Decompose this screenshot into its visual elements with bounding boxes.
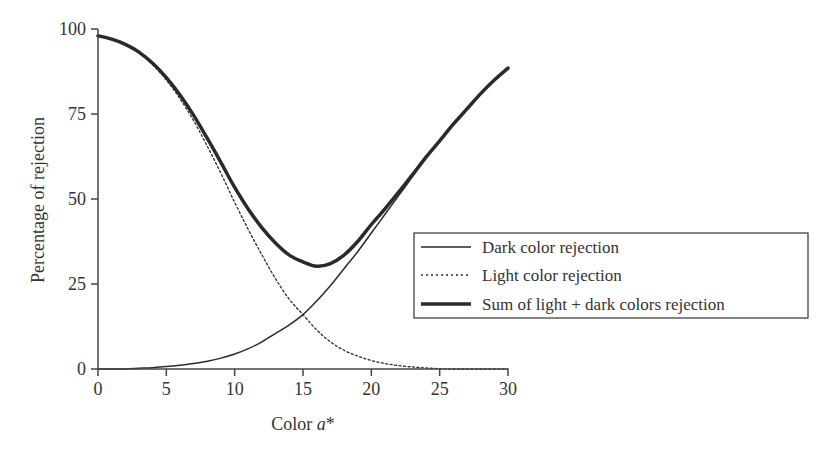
x-tick-label: 10 <box>226 379 244 399</box>
y-tick-label: 50 <box>68 189 86 209</box>
x-axis-title: Color a* <box>271 414 335 434</box>
series-sum-line <box>98 36 508 267</box>
legend-label-light: Light color rejection <box>482 266 622 285</box>
line-chart: 0255075100 051015202530 Percentage of re… <box>0 0 835 453</box>
x-tick-label: 25 <box>431 379 449 399</box>
x-axis-title-italic: a <box>317 414 326 434</box>
y-tick-label: 75 <box>68 104 86 124</box>
x-axis-title-suffix: * <box>326 414 335 434</box>
legend: Dark color rejection Light color rejecti… <box>414 233 808 318</box>
series-dark-line <box>98 68 508 369</box>
x-tick-label: 30 <box>499 379 517 399</box>
plot-lines <box>98 36 508 369</box>
y-tick-label: 25 <box>68 274 86 294</box>
y-tick-label: 100 <box>59 19 86 39</box>
legend-label-dark: Dark color rejection <box>482 238 619 257</box>
x-tick-label: 20 <box>362 379 380 399</box>
x-tick-label: 5 <box>162 379 171 399</box>
y-axis: 0255075100 <box>59 19 98 379</box>
x-tick-label: 0 <box>94 379 103 399</box>
y-axis-title: Percentage of rejection <box>28 117 48 283</box>
legend-label-sum: Sum of light + dark colors rejection <box>482 295 725 314</box>
x-axis: 051015202530 <box>94 369 518 399</box>
x-axis-title-prefix: Color <box>271 414 317 434</box>
y-tick-label: 0 <box>77 359 86 379</box>
series-light-line <box>98 36 508 369</box>
x-tick-label: 15 <box>294 379 312 399</box>
